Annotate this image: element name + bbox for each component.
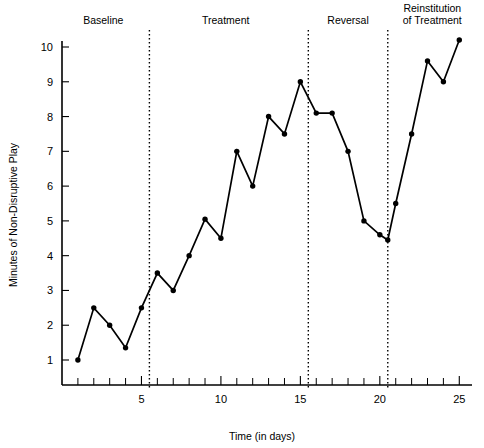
data-point: [457, 37, 462, 42]
data-series: [75, 37, 462, 362]
data-point: [139, 305, 144, 310]
data-point: [329, 110, 334, 115]
x-tick-label-25: 25: [453, 393, 465, 405]
data-point: [107, 323, 112, 328]
x-tick-label-15: 15: [294, 393, 306, 405]
phase-label-3: Reinstitution: [403, 2, 461, 14]
data-point: [250, 183, 255, 188]
phase-label-3-line2: of Treatment: [403, 14, 462, 26]
data-point: [75, 357, 80, 362]
data-point: [155, 270, 160, 275]
y-tick-label-4: 4: [47, 250, 53, 262]
x-tick-label-20: 20: [374, 393, 386, 405]
y-tick-label-2: 2: [47, 319, 53, 331]
y-tick-label-8: 8: [47, 111, 53, 123]
data-point: [385, 237, 390, 242]
phase-labels: BaselineTreatmentReversalReinstitutionof…: [83, 2, 462, 26]
reversal-design-line-chart: BaselineTreatmentReversalReinstitutionof…: [0, 0, 484, 448]
data-point: [171, 288, 176, 293]
x-tick-label-10: 10: [215, 393, 227, 405]
phase-label-2: Reversal: [327, 14, 368, 26]
data-point: [266, 114, 271, 119]
data-point: [314, 110, 319, 115]
y-tick-label-7: 7: [47, 145, 53, 157]
data-point: [202, 216, 207, 221]
x-axis: 510152025: [62, 376, 472, 405]
phase-label-0: Baseline: [83, 14, 123, 26]
chart-container: BaselineTreatmentReversalReinstitutionof…: [0, 0, 484, 448]
data-point: [91, 305, 96, 310]
y-tick-label-9: 9: [47, 76, 53, 88]
y-tick-label-3: 3: [47, 284, 53, 296]
data-point: [361, 218, 366, 223]
data-line: [78, 40, 459, 360]
y-tick-label-1: 1: [47, 354, 53, 366]
x-axis-title: Time (in days): [229, 430, 295, 442]
x-tick-label-5: 5: [138, 393, 144, 405]
data-point: [377, 232, 382, 237]
y-tick-label-6: 6: [47, 180, 53, 192]
data-point: [218, 236, 223, 241]
y-axis: 12345678910: [41, 41, 69, 385]
y-axis-title: Minutes of Non-Disruptive Play: [7, 142, 19, 287]
phase-label-1: Treatment: [202, 14, 250, 26]
data-point: [393, 201, 398, 206]
data-point: [345, 149, 350, 154]
data-point: [123, 345, 128, 350]
data-point: [298, 79, 303, 84]
data-point: [425, 58, 430, 63]
y-tick-label-5: 5: [47, 215, 53, 227]
data-point: [282, 131, 287, 136]
data-point: [409, 131, 414, 136]
data-point: [441, 79, 446, 84]
data-point: [234, 149, 239, 154]
y-tick-label-10: 10: [41, 41, 53, 53]
phase-divider-lines: [149, 30, 387, 388]
data-point: [186, 253, 191, 258]
